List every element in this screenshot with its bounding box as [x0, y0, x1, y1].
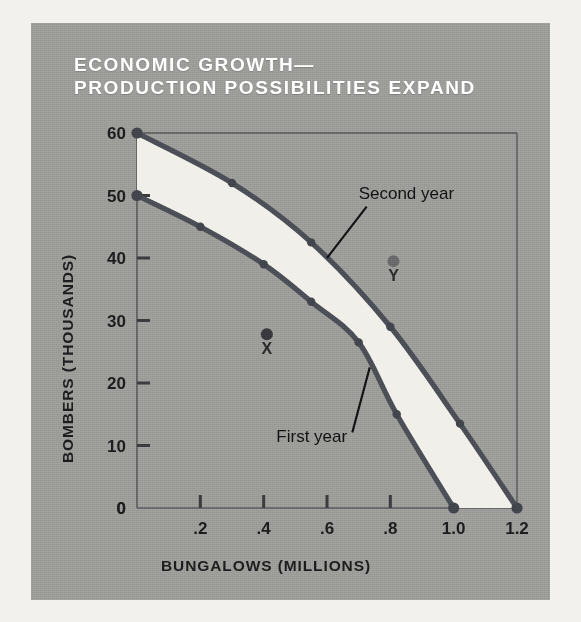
x-tick-label: 1.2 — [505, 519, 529, 538]
x-tick-label: .4 — [257, 519, 272, 538]
x-tick-label: 1.0 — [442, 519, 466, 538]
y-tick-label: 40 — [107, 249, 126, 268]
data-point-marker — [386, 323, 394, 331]
growth-band — [137, 133, 517, 508]
point-y-label: Y — [388, 267, 399, 284]
x-tick-label: 0 — [117, 499, 126, 518]
x-tick-label: .2 — [193, 519, 207, 538]
data-point-marker — [307, 238, 315, 246]
data-point-marker — [131, 127, 142, 138]
data-point-marker — [307, 298, 315, 306]
chart-figure: ECONOMIC GROWTH— PRODUCTION POSSIBILITIE… — [31, 23, 550, 600]
data-point-marker — [448, 502, 459, 513]
y-tick-label: 30 — [107, 312, 126, 331]
y-tick-label: 10 — [107, 437, 126, 456]
data-point-marker — [131, 190, 142, 201]
y-axis-title: BOMBERS (THOUSANDS) — [59, 254, 76, 463]
x-tick-label: .8 — [383, 519, 397, 538]
point-x-label: X — [261, 340, 272, 357]
second-year-label: Second year — [359, 184, 455, 203]
x-axis-title: BUNGALOWS (MILLIONS) — [161, 557, 371, 574]
first-year-label: First year — [276, 427, 347, 446]
data-point-marker — [392, 410, 400, 418]
data-point-marker — [196, 223, 204, 231]
chart-plot: 0102030405060 0.2.4.6.81.01.2 Second yea… — [31, 23, 550, 600]
data-point-marker — [354, 338, 362, 346]
annotation-point-y: Y — [388, 255, 400, 284]
y-tick-label: 20 — [107, 374, 126, 393]
y-tick-label: 60 — [107, 124, 126, 143]
y-tick-label: 50 — [107, 187, 126, 206]
x-tick-label: .6 — [320, 519, 334, 538]
data-point-marker — [228, 179, 236, 187]
data-point-marker — [511, 502, 522, 513]
data-point-marker — [456, 419, 464, 427]
data-point-marker — [259, 260, 267, 268]
annotation-point-x: X — [261, 328, 273, 357]
